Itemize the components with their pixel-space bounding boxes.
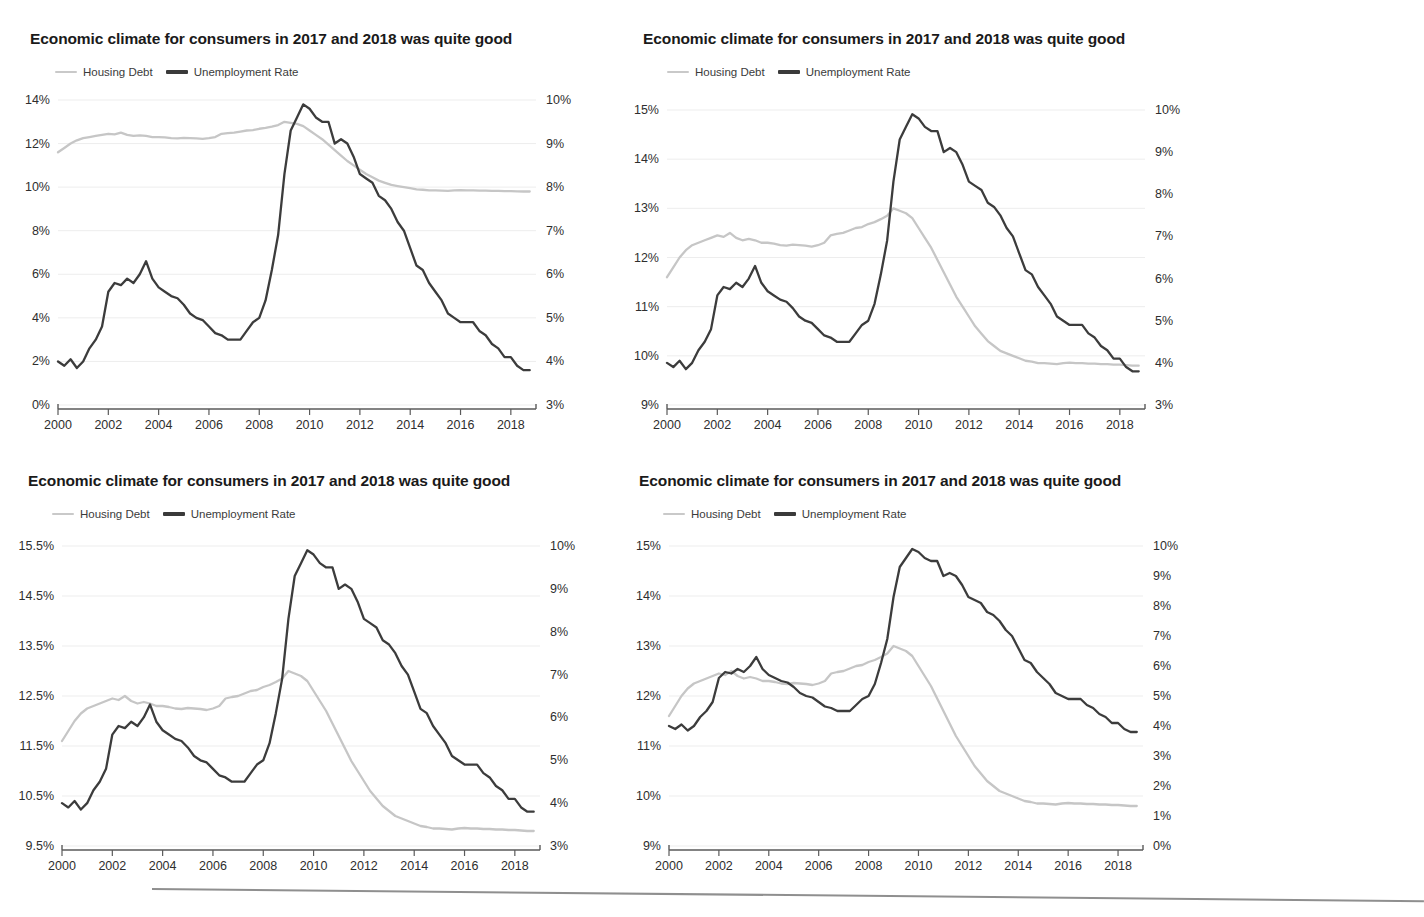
chart-svg (667, 110, 1145, 423)
series-line-housing-debt (62, 671, 534, 831)
x-axis-tick-label: 2004 (149, 860, 177, 873)
x-axis-tick-label: 2000 (655, 860, 683, 873)
chart-title: Economic climate for consumers in 2017 a… (30, 30, 512, 48)
y-axis-left-tick-label: 11% (635, 300, 659, 313)
y-axis-right-tick-label: 5% (1153, 690, 1171, 703)
y-axis-left-tick-label: 8% (32, 224, 50, 237)
x-axis-tick-label: 2000 (48, 860, 76, 873)
legend-swatch-unemployment-rate-icon (774, 512, 796, 516)
x-axis-tick-label: 2018 (1106, 419, 1134, 432)
y-axis-right-tick-label: 9% (550, 583, 568, 596)
x-axis-tick-label: 2018 (1104, 860, 1132, 873)
x-axis-tick-label: 2016 (1054, 860, 1082, 873)
x-axis-tick-label: 2012 (955, 419, 983, 432)
x-axis-tick-label: 2004 (755, 860, 783, 873)
y-axis-left-tick-label: 12% (634, 251, 659, 264)
plot-area-top-right: 9%10%11%12%13%14%15%3%4%5%6%7%8%9%10%200… (667, 110, 1145, 405)
y-axis-left-tick-label: 10% (25, 181, 50, 194)
x-axis-tick-label: 2008 (245, 419, 273, 432)
y-axis-left-tick-label: 10% (636, 790, 661, 803)
x-axis-tick-label: 2010 (905, 860, 933, 873)
y-axis-left-tick-label: 11% (637, 740, 661, 753)
y-axis-left-tick-label: 15% (634, 104, 659, 117)
y-axis-right-tick-label: 10% (1155, 104, 1180, 117)
x-axis-tick-label: 2002 (94, 419, 122, 432)
chart-svg (669, 546, 1143, 864)
plot-area-bottom-right: 9%10%11%12%13%14%15%0%1%2%3%4%5%6%7%8%9%… (669, 546, 1143, 846)
chart-title: Economic climate for consumers in 2017 a… (28, 472, 510, 490)
y-axis-left-tick-label: 14.5% (19, 590, 54, 603)
y-axis-left-tick-label: 13% (634, 202, 659, 215)
legend-item-housing-debt: Housing Debt (663, 508, 761, 520)
chart-panel-bottom-right: Economic climate for consumers in 2017 a… (605, 448, 1211, 878)
x-axis-tick-label: 2016 (447, 419, 475, 432)
y-axis-right-tick-label: 5% (1155, 314, 1173, 327)
y-axis-left-tick-label: 6% (32, 268, 50, 281)
x-axis-tick-label: 2006 (195, 419, 223, 432)
y-axis-left-tick-label: 2% (32, 355, 50, 368)
y-axis-right-tick-label: 0% (1153, 840, 1171, 853)
y-axis-right-tick-label: 5% (546, 312, 564, 325)
y-axis-left-tick-label: 14% (636, 590, 661, 603)
y-axis-left-tick-label: 10% (634, 350, 659, 363)
y-axis-right-tick-label: 4% (1153, 720, 1171, 733)
y-axis-left-tick-label: 14% (25, 94, 50, 107)
series-line-unemployment-rate (667, 114, 1139, 371)
y-axis-left-tick-label: 15% (636, 540, 661, 553)
legend-label-housing-debt: Housing Debt (83, 66, 153, 78)
x-axis-tick-label: 2016 (451, 860, 479, 873)
x-axis-tick-label: 2002 (703, 419, 731, 432)
y-axis-right-tick-label: 3% (1153, 750, 1171, 763)
y-axis-right-tick-label: 6% (546, 268, 564, 281)
x-axis-tick-label: 2016 (1056, 419, 1084, 432)
y-axis-left-tick-label: 12% (636, 690, 661, 703)
x-axis-tick-label: 2014 (1005, 419, 1033, 432)
y-axis-right-tick-label: 4% (550, 797, 568, 810)
legend-label-unemployment-rate: Unemployment Rate (802, 508, 907, 520)
legend-label-unemployment-rate: Unemployment Rate (191, 508, 296, 520)
legend-swatch-housing-debt-icon (55, 71, 77, 74)
series-line-unemployment-rate (62, 550, 534, 811)
x-axis-tick-label: 2002 (98, 860, 126, 873)
x-axis-tick-label: 2004 (145, 419, 173, 432)
y-axis-right-tick-label: 7% (1153, 630, 1171, 643)
y-axis-right-tick-label: 9% (1153, 570, 1171, 583)
y-axis-left-tick-label: 0% (32, 399, 50, 412)
x-axis-tick-label: 2010 (905, 419, 933, 432)
y-axis-left-tick-label: 9% (643, 840, 661, 853)
x-axis-tick-label: 2012 (954, 860, 982, 873)
y-axis-right-tick-label: 8% (1153, 600, 1171, 613)
series-line-housing-debt (667, 208, 1139, 365)
y-axis-right-tick-label: 10% (546, 94, 571, 107)
series-line-unemployment-rate (58, 104, 530, 370)
y-axis-right-tick-label: 4% (546, 355, 564, 368)
x-axis-tick-label: 2014 (396, 419, 424, 432)
y-axis-left-tick-label: 4% (32, 312, 50, 325)
x-axis-tick-label: 2010 (296, 419, 324, 432)
legend-item-unemployment-rate: Unemployment Rate (774, 508, 907, 520)
legend-label-housing-debt: Housing Debt (691, 508, 761, 520)
x-axis-tick-label: 2004 (754, 419, 782, 432)
legend-swatch-unemployment-rate-icon (163, 512, 185, 516)
series-line-unemployment-rate (669, 549, 1137, 732)
x-axis-tick-label: 2000 (653, 419, 681, 432)
x-axis-tick-label: 2014 (1004, 860, 1032, 873)
legend-item-unemployment-rate: Unemployment Rate (163, 508, 296, 520)
y-axis-right-tick-label: 8% (1155, 188, 1173, 201)
x-axis-tick-label: 2012 (346, 419, 374, 432)
y-axis-right-tick-label: 1% (1153, 810, 1171, 823)
series-line-housing-debt (58, 122, 530, 192)
legend-swatch-housing-debt-icon (52, 513, 74, 516)
x-axis-tick-label: 2000 (44, 419, 72, 432)
legend-item-housing-debt: Housing Debt (667, 66, 765, 78)
chart-legend: Housing Debt Unemployment Rate (55, 66, 299, 78)
legend-swatch-housing-debt-icon (663, 513, 685, 516)
y-axis-right-tick-label: 6% (1153, 660, 1171, 673)
y-axis-right-tick-label: 3% (550, 840, 568, 853)
legend-swatch-unemployment-rate-icon (778, 70, 800, 74)
legend-item-unemployment-rate: Unemployment Rate (166, 66, 299, 78)
legend-label-unemployment-rate: Unemployment Rate (194, 66, 299, 78)
x-axis-tick-label: 2008 (249, 860, 277, 873)
x-axis-tick-label: 2010 (300, 860, 328, 873)
y-axis-right-tick-label: 3% (546, 399, 564, 412)
